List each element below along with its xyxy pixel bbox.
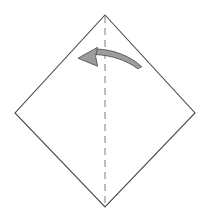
fold-diagram-canvas xyxy=(0,0,208,218)
origami-diagram-container xyxy=(0,0,208,218)
